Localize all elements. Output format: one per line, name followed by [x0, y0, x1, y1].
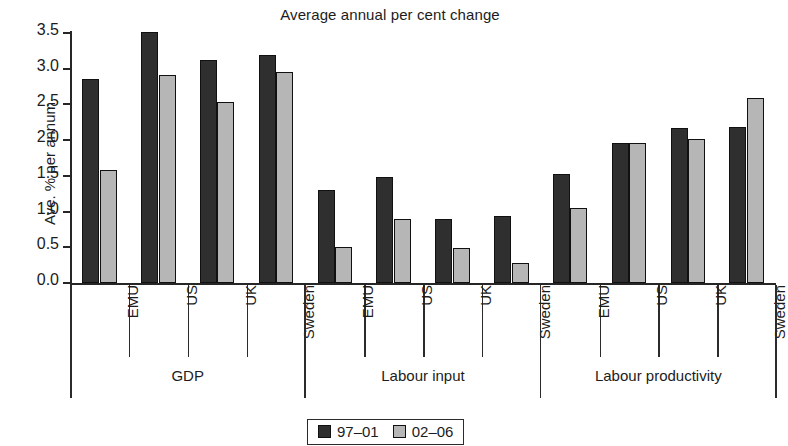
bar — [747, 98, 764, 283]
bar — [335, 247, 352, 283]
y-axis-tick: 1.5 — [63, 175, 70, 177]
bar — [318, 190, 335, 283]
bar — [435, 219, 452, 283]
chart-title: Average annual per cent change — [0, 6, 780, 23]
bar — [276, 72, 293, 283]
bar — [217, 102, 234, 283]
legend-entry: 97–01 — [318, 423, 379, 440]
bar — [612, 143, 629, 283]
y-axis-tick-label: 2.5 — [15, 92, 59, 110]
legend-swatch — [393, 425, 406, 438]
y-axis-tick-label: 0.5 — [15, 235, 59, 253]
y-axis-tick: 0.5 — [63, 246, 70, 248]
bar — [671, 128, 688, 283]
x-axis-category-label: UK — [478, 285, 494, 361]
bar — [729, 127, 746, 283]
y-axis-tick: 3.5 — [63, 32, 70, 34]
bar — [394, 219, 411, 283]
bar — [570, 208, 587, 283]
bar — [512, 263, 529, 283]
y-axis-tick-label: 3.5 — [15, 21, 59, 39]
legend-label: 97–01 — [337, 423, 379, 440]
x-axis-category-label: US — [419, 285, 435, 361]
bar — [200, 60, 217, 283]
y-axis-tick: 0.0 — [63, 282, 70, 284]
legend-swatch — [318, 425, 331, 438]
x-axis-category-label: UK — [243, 285, 259, 361]
y-axis-tick-label: 1.0 — [15, 200, 59, 218]
plot-area: 0.00.51.01.52.02.53.03.5 — [70, 33, 776, 283]
x-axis-group-label: Labour productivity — [541, 367, 776, 384]
bar — [159, 75, 176, 283]
x-axis-group-label: Labour input — [305, 367, 540, 384]
x-axis-category-label: EMU — [596, 285, 612, 361]
x-axis-category-label: US — [654, 285, 670, 361]
bar — [82, 79, 99, 283]
bar — [453, 248, 470, 283]
x-axis-band: EMUUSUKSwedenGDPEMUUSUKSwedenLabour inpu… — [70, 285, 776, 398]
legend-label: 02–06 — [412, 423, 454, 440]
bar — [100, 170, 117, 283]
bar — [376, 177, 393, 283]
bar — [259, 55, 276, 283]
bar — [141, 32, 158, 283]
legend-entry: 02–06 — [393, 423, 454, 440]
y-axis-tick: 2.0 — [63, 139, 70, 141]
y-axis-tick-label: 0.0 — [15, 271, 59, 289]
x-axis-category-label: US — [184, 285, 200, 361]
x-axis-category-label: EMU — [360, 285, 376, 361]
y-axis-tick: 2.5 — [63, 103, 70, 105]
y-axis-tick-label: 3.0 — [15, 57, 59, 75]
bar — [494, 216, 511, 283]
x-axis-group-label: GDP — [70, 367, 305, 384]
y-axis-tick: 1.0 — [63, 211, 70, 213]
chart-legend: 97–0102–06 — [307, 419, 464, 445]
bar — [553, 174, 570, 283]
y-axis-tick: 3.0 — [63, 68, 70, 70]
bar — [629, 143, 646, 283]
bar — [688, 139, 705, 283]
y-axis-tick-label: 2.0 — [15, 128, 59, 146]
y-axis-tick-label: 1.5 — [15, 164, 59, 182]
x-axis-category-label: UK — [713, 285, 729, 361]
x-axis-category-label: EMU — [125, 285, 141, 361]
